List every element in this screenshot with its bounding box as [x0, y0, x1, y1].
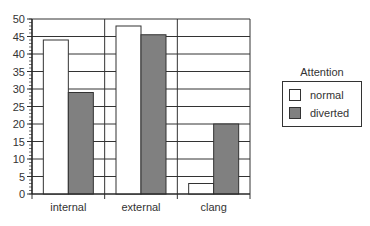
legend-item-normal: normal	[289, 86, 355, 104]
y-tick-label: 15	[13, 136, 25, 148]
x-category-label: clang	[201, 201, 227, 213]
x-category-label: external	[121, 201, 160, 213]
legend-title: Attention	[282, 66, 362, 78]
bar-normal	[189, 184, 214, 195]
legend-swatch-diverted	[289, 107, 301, 119]
y-tick-label: 5	[19, 171, 25, 183]
y-tick-label: 30	[13, 83, 25, 95]
y-tick-label: 50	[13, 13, 25, 25]
bar-diverted	[68, 93, 93, 195]
y-tick-label: 35	[13, 66, 25, 78]
x-category-label: internal	[50, 201, 86, 213]
y-tick-label: 0	[19, 188, 25, 200]
legend-box: normal diverted	[282, 81, 362, 127]
y-tick-label: 45	[13, 31, 25, 43]
legend-label: normal	[310, 89, 344, 101]
y-tick-label: 40	[13, 48, 25, 60]
y-tick-label: 25	[13, 101, 25, 113]
legend-swatch-normal	[289, 89, 301, 101]
legend-item-diverted: diverted	[289, 104, 355, 122]
bar-normal	[43, 40, 68, 194]
y-tick-label: 20	[13, 118, 25, 130]
bar-normal	[116, 26, 141, 194]
bar-diverted	[214, 124, 239, 194]
legend: Attention normal diverted	[282, 66, 362, 127]
bar-diverted	[141, 35, 166, 194]
legend-label: diverted	[310, 107, 349, 119]
y-tick-label: 10	[13, 153, 25, 165]
